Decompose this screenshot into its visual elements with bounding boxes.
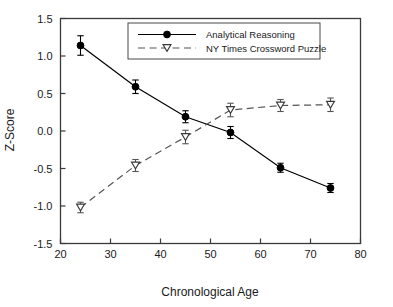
y-tick-label: 0.0 xyxy=(37,125,52,137)
x-tick-label: 20 xyxy=(54,248,66,260)
x-tick-label: 50 xyxy=(204,248,216,260)
legend-label: NY Times Crossword Puzzle xyxy=(206,43,326,54)
data-point-circle xyxy=(327,185,334,192)
y-tick-label: -1.5 xyxy=(34,238,53,250)
y-tick-label: 0.5 xyxy=(37,88,52,100)
chart-legend: Analytical ReasoningNY Times Crossword P… xyxy=(128,23,326,59)
x-tick-label: 30 xyxy=(104,248,116,260)
y-tick-label: 1.0 xyxy=(37,50,52,62)
x-tick-label: 70 xyxy=(304,248,316,260)
y-tick-label: -1.0 xyxy=(34,200,53,212)
y-tick-label: -0.5 xyxy=(34,163,53,175)
legend-marker-circle xyxy=(164,31,171,38)
data-point-circle xyxy=(77,42,84,49)
y-axis-title: Z-Score xyxy=(3,108,17,151)
legend-label: Analytical Reasoning xyxy=(206,29,295,40)
line-chart: 20304050607080 -1.5-1.0-0.50.00.51.01.5 … xyxy=(0,0,393,307)
data-point-circle xyxy=(132,83,139,90)
x-tick-label: 40 xyxy=(154,248,166,260)
data-point-circle xyxy=(227,129,234,136)
x-tick-label: 80 xyxy=(354,248,366,260)
data-point-circle xyxy=(182,113,189,120)
x-tick-label: 60 xyxy=(254,248,266,260)
data-point-circle xyxy=(277,164,284,171)
y-tick-label: 1.5 xyxy=(37,13,52,25)
chart-figure: 20304050607080 -1.5-1.0-0.50.00.51.01.5 … xyxy=(0,0,393,307)
x-axis-title: Chronological Age xyxy=(161,285,259,299)
